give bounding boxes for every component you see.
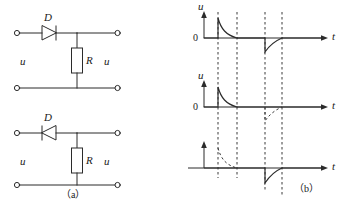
terminal-top-left-in: [14, 30, 19, 35]
plot3-x-label: t: [332, 161, 335, 172]
plot2-y-arrowhead: [201, 80, 207, 87]
plot3-y-arrowhead: [201, 141, 207, 148]
output-bottom-label: u: [104, 156, 110, 167]
waveform-panel: u 0 t u 0 t t （b）: [174, 0, 348, 209]
terminal-b-top-left-in: [14, 130, 19, 135]
plot1-negative-pulse: [265, 38, 282, 52]
plot1-y-arrowhead: [201, 11, 207, 18]
plot-output-top: [201, 80, 328, 121]
plot1-positive-pulse: [204, 18, 237, 38]
plot1-x-arrowhead: [321, 35, 328, 41]
terminal-b-bottom-right-out: [115, 182, 120, 187]
caption-b: （b）: [294, 184, 319, 194]
diode-bottom-triangle: [42, 126, 56, 140]
plot-output-bottom: [188, 141, 328, 183]
terminal-b-top-right-out: [115, 130, 120, 135]
plot2-x-label: t: [332, 100, 335, 111]
resistor-top-label: R: [86, 55, 93, 66]
input-top-label: u: [20, 56, 26, 67]
plot3-ghost-positive-pulse: [218, 148, 237, 168]
circuit-panel: D R u u D R u u （a）: [0, 0, 174, 209]
waveform-drawing: [174, 0, 348, 209]
output-top-label: u: [104, 56, 110, 67]
terminal-top-right-out: [115, 30, 120, 35]
terminal-bottom-left-in: [14, 85, 19, 90]
diode-top-triangle: [42, 26, 56, 40]
resistor-top: [72, 48, 83, 73]
resistor-bottom: [72, 148, 83, 173]
plot2-origin-label: 0: [193, 102, 198, 112]
plot3-negative-pulse: [265, 168, 282, 183]
plot1-origin-label: 0: [193, 33, 198, 43]
plot1-x-label: t: [332, 31, 335, 42]
terminal-b-bottom-left-in: [14, 182, 19, 187]
diode-bottom-label: D: [44, 112, 52, 123]
plot1-y-label: u: [198, 1, 204, 12]
resistor-bottom-label: R: [86, 155, 93, 166]
diode-top-label: D: [44, 12, 52, 23]
caption-a: （a）: [61, 190, 85, 200]
input-bottom-label: u: [20, 156, 26, 167]
plot2-ghost-negative-pulse: [265, 107, 282, 121]
terminal-bottom-right-out: [115, 85, 120, 90]
plot2-x-arrowhead: [321, 104, 328, 110]
plot3-x-arrowhead: [321, 165, 328, 171]
circuit-drawing: [0, 0, 174, 209]
figure-root: D R u u D R u u （a）: [0, 0, 348, 209]
plot2-y-label: u: [198, 70, 204, 81]
plot2-positive-pulse: [204, 87, 237, 107]
